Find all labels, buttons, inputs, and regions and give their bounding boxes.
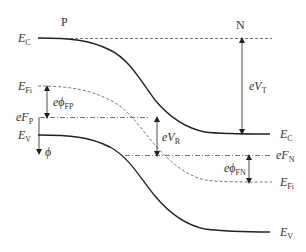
phi-label: ϕ [45,145,51,159]
e-phi-fn-label: eϕFN [224,161,246,177]
ec-left-label: EC [17,31,31,47]
n-region-label: N [236,18,245,32]
p-region-label: P [61,15,68,29]
efn-label: eFN [276,148,295,164]
conduction-band [38,38,270,134]
ev-right-label: EV [279,225,293,241]
valence-band [38,135,270,232]
ev-left-label: EV [17,128,31,144]
efi-left-label: EFi [17,79,33,95]
efp-label: eFP [16,110,34,126]
e-vt-label: eVT [249,79,267,95]
ec-right-label: EC [279,127,293,143]
band-diagram: P N EC EFi eFP EV ϕ eϕFP eVT eVR eϕFN EC… [0,0,306,252]
e-phi-fp-label: eϕFP [53,95,74,111]
e-vr-label: eVR [162,130,181,146]
efi-right-label: EFi [279,175,295,191]
